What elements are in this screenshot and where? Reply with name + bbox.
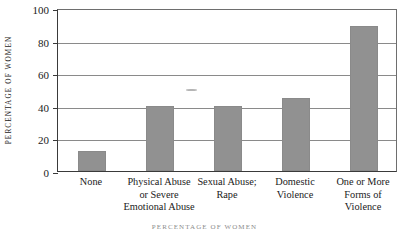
bottom-caption: PERCENTAGE OF WOMEN — [0, 223, 409, 230]
bar — [214, 106, 242, 171]
y-axis-title-text: PERCENTAGE OF WOMEN — [5, 36, 13, 145]
gridline — [58, 43, 396, 44]
scan-artifact-mark — [186, 89, 197, 91]
y-axis-tick-label: 20 — [38, 134, 49, 146]
category-label-line: Emotional Abuse — [116, 201, 202, 214]
bar — [146, 106, 174, 171]
y-axis-tick — [53, 140, 58, 141]
y-axis-tick-label: 100 — [33, 4, 50, 16]
bar — [78, 151, 106, 171]
bar — [350, 26, 378, 171]
y-axis-tick — [53, 10, 58, 11]
category-label-line: Forms of — [320, 189, 406, 202]
plot-area: 020406080100 — [57, 9, 397, 172]
y-axis-tick-label: 40 — [38, 102, 49, 114]
y-axis-tick — [53, 43, 58, 44]
chart-page: PERCENTAGE OF WOMEN 020406080100 NonePhy… — [0, 0, 409, 230]
y-axis-tick — [53, 173, 58, 174]
category-label-line: One or More — [320, 176, 406, 189]
y-axis-tick — [53, 108, 58, 109]
y-axis-tick — [53, 75, 58, 76]
x-axis-category-label: One or MoreForms ofViolence — [320, 176, 406, 214]
y-axis-tick-label: 80 — [38, 37, 49, 49]
category-label-line: Violence — [320, 201, 406, 214]
y-axis-title: PERCENTAGE OF WOMEN — [0, 0, 18, 180]
y-axis-tick-label: 60 — [38, 69, 49, 81]
gridline — [58, 75, 396, 76]
bar — [282, 98, 310, 171]
